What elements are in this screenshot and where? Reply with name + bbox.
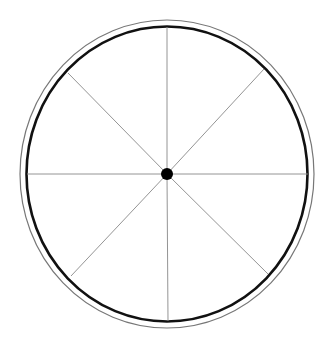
spoke-northwest xyxy=(68,73,167,174)
spoke-southwest xyxy=(71,174,167,276)
wheel-diagram xyxy=(0,0,334,347)
spoke-southeast xyxy=(167,174,268,274)
hub xyxy=(161,168,173,180)
spoke-northeast xyxy=(167,69,264,174)
spoke-south xyxy=(167,174,168,321)
